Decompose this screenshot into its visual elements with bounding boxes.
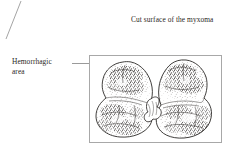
leader-line-hemorrhagic [72, 63, 90, 64]
specimen-illustration [89, 55, 222, 143]
label-hemorrhagic-line2: area [12, 67, 74, 77]
figure-canvas: Cut surface of the myxoma Hemorrhagic ar… [0, 0, 249, 154]
label-cut-surface: Cut surface of the myxoma [131, 15, 213, 25]
leader-line-cut-surface [0, 0, 22, 40]
label-hemorrhagic-area: Hemorrhagic area [12, 57, 74, 77]
label-hemorrhagic-line1: Hemorrhagic [12, 57, 74, 67]
